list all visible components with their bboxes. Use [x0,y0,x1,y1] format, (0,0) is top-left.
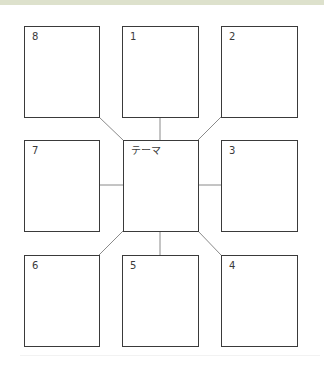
bottom-divider [20,355,320,356]
connector-2 [198,117,221,140]
cell-label: 1 [130,32,136,42]
connector-6 [99,231,123,255]
cell-label: 2 [229,32,235,42]
center-theme-cell: テーマ [123,140,199,232]
theme-label: テーマ [131,146,161,156]
cell-8: 8 [24,26,100,118]
cell-5: 5 [122,255,199,347]
cell-6: 6 [24,255,100,347]
cell-2: 2 [221,26,298,118]
cell-4: 4 [221,255,298,347]
connector-4 [198,231,221,255]
cell-label: 8 [32,32,38,42]
cell-label: 5 [130,261,136,271]
cell-7: 7 [24,140,100,232]
cell-1: 1 [122,26,199,118]
cell-label: 7 [32,146,38,156]
connector-8 [99,117,123,140]
cell-label: 6 [32,261,38,271]
cell-label: 4 [229,261,235,271]
cell-label: 3 [229,146,235,156]
cell-3: 3 [221,140,298,232]
